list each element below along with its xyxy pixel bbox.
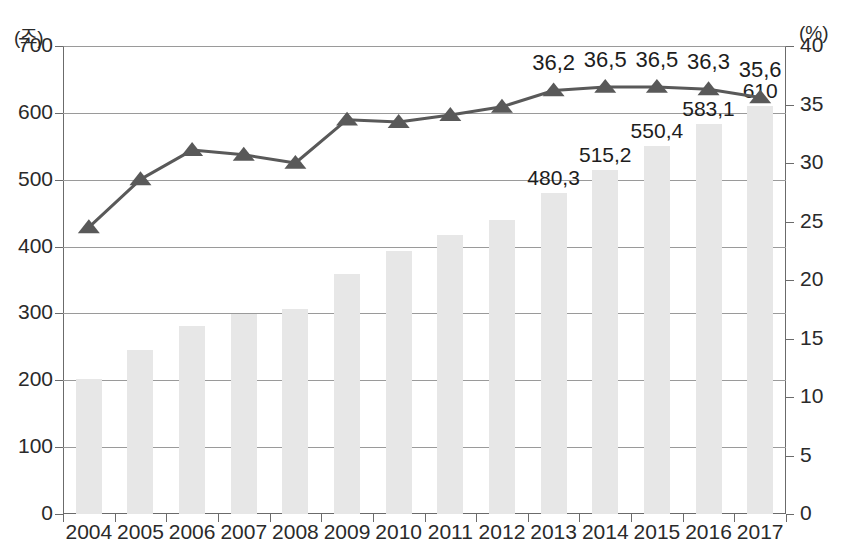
- bar: [334, 274, 360, 514]
- x-axis-tick-label: 2015: [634, 520, 681, 544]
- x-axis-tick-label: 2005: [117, 520, 164, 544]
- gridline: [63, 247, 786, 248]
- x-axis-tick-label: 2013: [530, 520, 577, 544]
- bar: [282, 309, 308, 514]
- right-axis-tick-label: 35: [800, 92, 841, 116]
- right-axis-tickmark: [786, 222, 794, 223]
- bar: [592, 170, 618, 514]
- bar: [76, 379, 102, 514]
- line-data-label: 36,5: [584, 47, 627, 73]
- right-axis-tick-label: 30: [800, 150, 841, 174]
- x-axis-tick-label: 2016: [685, 520, 732, 544]
- x-axis-tick-label: 2006: [169, 520, 216, 544]
- right-axis-tick-label: 5: [800, 443, 841, 467]
- left-axis-tick-label: 100: [5, 434, 53, 458]
- right-axis-tickmark: [786, 46, 794, 47]
- right-axis-tickmark: [786, 456, 794, 457]
- x-axis-tick-label: 2004: [65, 520, 112, 544]
- line-data-label: 36,3: [687, 49, 730, 75]
- left-axis-tick-label: 600: [5, 100, 53, 124]
- plot-area-frame: [63, 46, 786, 514]
- left-axis-tick-label: 300: [5, 300, 53, 324]
- gridline: [63, 380, 786, 381]
- x-axis-tick-label: 2017: [737, 520, 784, 544]
- left-axis-tick-label: 400: [5, 234, 53, 258]
- left-axis-tick-label: 700: [5, 33, 53, 57]
- left-axis-tickmark: [55, 113, 63, 114]
- left-axis-tickmark: [55, 514, 63, 515]
- left-axis-tick-labels: 0100200300400500600700: [0, 0, 53, 557]
- bar: [437, 235, 463, 514]
- bar: [644, 146, 670, 514]
- left-axis-tickmark: [55, 447, 63, 448]
- right-axis-tick-labels: 0510152025303540: [800, 0, 841, 557]
- x-axis-tick-labels: 2004200520062007200820092010201120122013…: [0, 520, 841, 550]
- left-axis-tickmark: [55, 180, 63, 181]
- x-axis-tick-label: 2012: [479, 520, 526, 544]
- right-axis-tick-label: 10: [800, 384, 841, 408]
- gridline: [63, 313, 786, 314]
- left-axis-tickmark: [55, 380, 63, 381]
- bar: [696, 124, 722, 514]
- gridline: [63, 447, 786, 448]
- bar: [489, 220, 515, 514]
- bar-data-label: 515,2: [579, 143, 632, 167]
- gridline: [63, 180, 786, 181]
- right-axis-tick-label: 15: [800, 326, 841, 350]
- bar-data-label: 480,3: [527, 166, 580, 190]
- bar: [231, 314, 257, 514]
- chart-container: (조) (%) 0100200300400500600700 051015202…: [0, 0, 841, 557]
- bar: [127, 350, 153, 514]
- left-axis-tickmark: [55, 247, 63, 248]
- bar-data-label: 550,4: [631, 119, 684, 143]
- right-axis-tickmark: [786, 280, 794, 281]
- bar: [386, 251, 412, 514]
- line-data-label: 35,6: [739, 57, 782, 83]
- right-axis-tickmark: [786, 397, 794, 398]
- left-axis-tick-label: 200: [5, 367, 53, 391]
- right-axis-tickmark: [786, 514, 794, 515]
- bar: [179, 326, 205, 514]
- x-axis-tick-label: 2010: [375, 520, 422, 544]
- right-axis-tick-label: 40: [800, 33, 841, 57]
- bar: [541, 193, 567, 514]
- right-axis-tickmark: [786, 339, 794, 340]
- right-axis-tick-label: 20: [800, 267, 841, 291]
- right-axis-tickmark: [786, 163, 794, 164]
- right-axis-tick-label: 25: [800, 209, 841, 233]
- x-axis-tick-label: 2008: [272, 520, 319, 544]
- right-axis-tickmark: [786, 105, 794, 106]
- bar-data-label: 583,1: [682, 97, 735, 121]
- x-axis-tick-label: 2007: [220, 520, 267, 544]
- left-axis-tickmark: [55, 313, 63, 314]
- bar: [747, 106, 773, 514]
- x-axis-tick-label: 2011: [428, 520, 473, 544]
- line-data-label: 36,5: [635, 47, 678, 73]
- x-axis-tick-label: 2009: [324, 520, 371, 544]
- left-axis-tick-label: 500: [5, 167, 53, 191]
- left-axis-tickmark: [55, 46, 63, 47]
- x-axis-tick-label: 2014: [582, 520, 629, 544]
- line-data-label: 36,2: [532, 50, 575, 76]
- gridline: [63, 113, 786, 114]
